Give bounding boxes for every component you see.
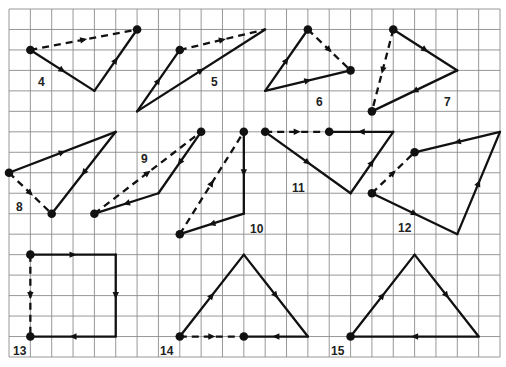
figure-4 [30, 29, 137, 90]
arrowhead-icon [123, 199, 131, 205]
endpoint-dot [197, 128, 206, 137]
endpoint-dot [368, 189, 377, 198]
figure-label-9: 9 [141, 152, 148, 166]
endpoint-dot [240, 332, 249, 341]
arrowhead-icon [358, 129, 365, 135]
endpoint-dot [410, 148, 419, 157]
arrowhead-icon [272, 333, 279, 339]
endpoint-dot [5, 168, 14, 177]
arrowhead-icon [80, 37, 87, 43]
endpoint-dot [346, 66, 355, 75]
endpoint-dot [26, 332, 35, 341]
endpoint-dot [368, 107, 377, 116]
endpoint-dot [389, 25, 398, 34]
figure-label-12: 12 [398, 221, 412, 235]
endpoint-dot [47, 209, 56, 218]
figure-label-13: 13 [13, 344, 27, 358]
endpoint-dot [175, 46, 184, 55]
endpoint-dot [325, 128, 334, 137]
figure-label-6: 6 [316, 95, 323, 109]
arrowhead-icon [208, 220, 216, 226]
figure-label-5: 5 [211, 75, 218, 89]
arrowhead-icon [208, 333, 215, 339]
endpoint-dot [240, 128, 249, 137]
grid [9, 9, 500, 357]
endpoint-dot [346, 332, 355, 341]
vector-segments [9, 29, 500, 339]
figure-label-15: 15 [331, 344, 345, 358]
arrowhead-icon [58, 151, 66, 157]
vector-diagram-grid: 4 5 6 7 8 9 10 11 12 13 14 15 [0, 0, 506, 367]
endpoint-dot [133, 25, 142, 34]
arrowhead-icon [207, 180, 213, 188]
figure-label-10: 10 [250, 222, 264, 236]
endpoint-dot [26, 46, 35, 55]
figure-label-4: 4 [38, 75, 45, 89]
endpoint-dot [175, 230, 184, 239]
figure-label-11: 11 [292, 181, 305, 195]
endpoint-dot [26, 250, 35, 259]
figure-label-7: 7 [444, 95, 451, 109]
figure-label-14: 14 [160, 344, 174, 358]
figure-label-8: 8 [16, 200, 23, 214]
endpoint-dot [90, 209, 99, 218]
arrowhead-icon [294, 129, 301, 135]
endpoint-dot [175, 332, 184, 341]
endpoint-dot [304, 25, 313, 34]
endpoint-dot [261, 128, 270, 137]
